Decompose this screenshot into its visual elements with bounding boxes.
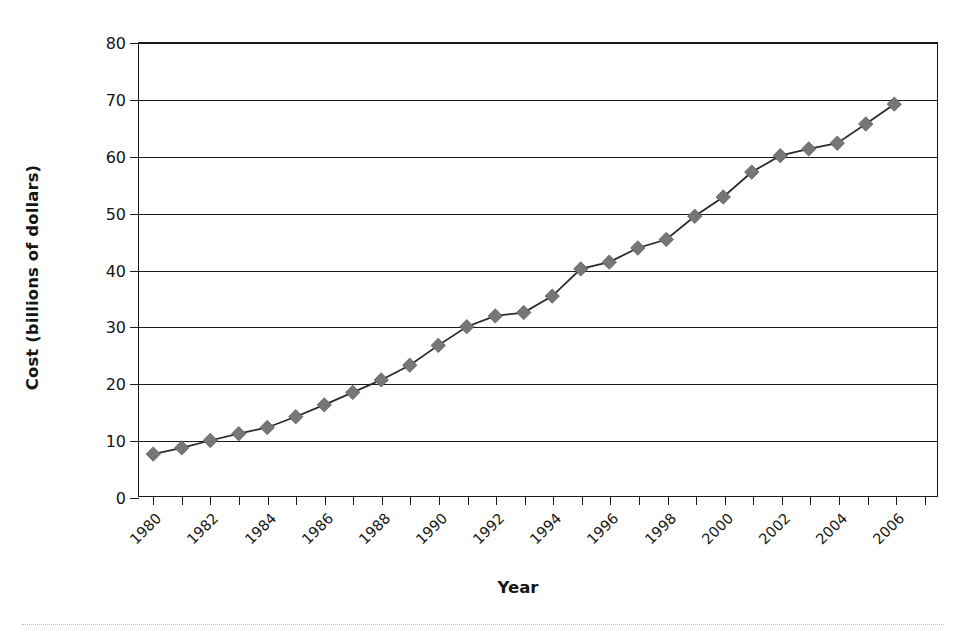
data-point-marker xyxy=(773,149,787,163)
y-axis-tick-label: 60 xyxy=(106,147,126,166)
y-axis-tick xyxy=(130,384,139,385)
x-axis-tick xyxy=(582,496,583,505)
x-axis-tick xyxy=(439,496,440,505)
y-axis-tick xyxy=(130,214,139,215)
data-point-marker xyxy=(887,97,901,111)
data-point-marker xyxy=(460,320,474,334)
data-point-marker xyxy=(488,309,502,323)
y-axis-tick-label: 80 xyxy=(106,34,126,53)
data-point-marker xyxy=(403,358,417,372)
x-axis-tick xyxy=(868,496,869,505)
x-axis-tick xyxy=(382,496,383,505)
data-point-marker xyxy=(317,398,331,412)
y-axis-tick xyxy=(130,498,139,499)
data-point-marker xyxy=(602,255,616,269)
x-axis-tick-label: 1984 xyxy=(225,510,279,564)
x-axis-tick xyxy=(468,496,469,505)
x-axis-tick xyxy=(668,496,669,505)
x-axis-tick xyxy=(810,496,811,505)
data-point-marker xyxy=(802,142,816,156)
y-axis-title: Cost (billions of dollars) xyxy=(23,98,42,458)
x-axis-tick xyxy=(525,496,526,505)
x-axis-tick xyxy=(610,496,611,505)
x-axis-tick xyxy=(268,496,269,505)
x-axis-tick-label: 1980 xyxy=(111,510,165,564)
x-axis-tick xyxy=(839,496,840,505)
data-point-marker xyxy=(631,241,645,255)
x-axis-tick xyxy=(325,496,326,505)
y-axis-tick-label: 30 xyxy=(106,318,126,337)
x-axis-tick-label: 1990 xyxy=(397,510,451,564)
x-axis-tick xyxy=(239,496,240,505)
x-axis-tick-label: 2000 xyxy=(682,510,736,564)
x-axis-tick-label: 1992 xyxy=(454,510,508,564)
y-axis-tick-label: 50 xyxy=(106,204,126,223)
plot-area: 01020304050607080 1980198219841986198819… xyxy=(138,42,938,497)
x-axis-tick xyxy=(296,496,297,505)
x-axis-tick xyxy=(782,496,783,505)
x-axis-tick xyxy=(725,496,726,505)
x-axis-tick xyxy=(696,496,697,505)
data-point-marker xyxy=(517,305,531,319)
x-axis-tick xyxy=(896,496,897,505)
chart-figure: Cost (billions of dollars) 0102030405060… xyxy=(0,0,966,634)
x-axis-tick-label: 1988 xyxy=(339,510,393,564)
y-axis-tick-label: 20 xyxy=(106,375,126,394)
y-axis-tick-label: 70 xyxy=(106,90,126,109)
x-axis-tick-label: 1986 xyxy=(282,510,336,564)
x-axis-tick-label: 1982 xyxy=(168,510,222,564)
data-series xyxy=(139,43,937,496)
x-axis-tick xyxy=(639,496,640,505)
footer-divider xyxy=(22,624,944,625)
y-axis-tick xyxy=(130,157,139,158)
x-axis-tick-label: 2002 xyxy=(739,510,793,564)
x-axis-tick xyxy=(182,496,183,505)
x-axis-tick xyxy=(925,496,926,505)
y-axis-tick xyxy=(130,43,139,44)
y-axis-tick-label: 40 xyxy=(106,261,126,280)
x-axis-title-text: Year xyxy=(498,578,539,597)
x-axis-title: Year xyxy=(0,578,966,597)
x-axis-tick-label: 2004 xyxy=(797,510,851,564)
x-axis-tick-label: 1998 xyxy=(625,510,679,564)
data-point-marker xyxy=(289,410,303,424)
x-axis-tick xyxy=(753,496,754,505)
data-point-marker xyxy=(859,117,873,131)
x-axis-tick xyxy=(153,496,154,505)
x-axis-tick xyxy=(210,496,211,505)
data-point-marker xyxy=(431,338,445,352)
y-axis-tick xyxy=(130,441,139,442)
y-axis-tick xyxy=(130,271,139,272)
data-point-marker xyxy=(203,433,217,447)
x-axis-tick xyxy=(553,496,554,505)
data-point-marker xyxy=(374,373,388,387)
y-axis-tick xyxy=(130,327,139,328)
y-axis-tick-label: 0 xyxy=(116,489,126,508)
data-point-marker xyxy=(260,420,274,434)
x-axis-tick xyxy=(496,496,497,505)
y-axis-tick-label: 10 xyxy=(106,432,126,451)
data-point-marker xyxy=(830,136,844,150)
data-point-marker xyxy=(232,427,246,441)
x-axis-tick-label: 2006 xyxy=(854,510,908,564)
x-axis-tick xyxy=(410,496,411,505)
y-axis-tick xyxy=(130,100,139,101)
data-point-marker xyxy=(346,385,360,399)
x-axis-tick xyxy=(353,496,354,505)
x-axis-tick-label: 1996 xyxy=(568,510,622,564)
x-axis-tick-label: 1994 xyxy=(511,510,565,564)
data-point-marker xyxy=(175,441,189,455)
data-point-marker xyxy=(146,447,160,461)
